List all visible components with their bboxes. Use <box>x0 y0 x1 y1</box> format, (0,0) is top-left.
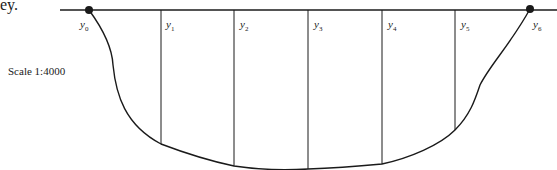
bank-point-left <box>85 6 93 14</box>
offset-label-y2: y2 <box>239 18 249 33</box>
offset-label-y3: y3 <box>313 18 323 33</box>
offset-label-y4: y4 <box>387 18 397 33</box>
riverbed-profile <box>89 9 530 170</box>
offset-label-y5: y5 <box>460 18 470 33</box>
bank-point-right <box>526 5 534 13</box>
offset-label-y6: y6 <box>532 18 542 33</box>
cross-section-diagram: y0 y1 y2 y3 y4 y5 y6 <box>0 0 557 170</box>
offset-label-y0: y0 <box>79 18 89 33</box>
offset-label-y1: y1 <box>165 18 175 33</box>
